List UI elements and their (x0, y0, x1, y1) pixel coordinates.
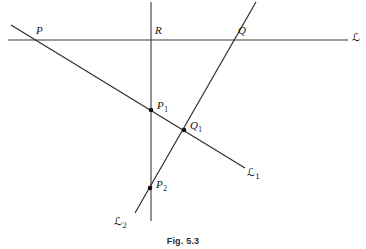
geometry-diagram (0, 0, 366, 249)
point-label-P1-base: P (157, 99, 164, 111)
line-label-L1-subscript: 1 (255, 172, 260, 181)
line-L1 (11, 25, 245, 168)
line-label-L2: ℒ2 (114, 216, 127, 227)
point-label-Q1-base: Q (190, 119, 198, 131)
point-label-P2: P2 (156, 179, 166, 190)
figure-container: P R Q P1 Q1 P2 ℒ ℒ1 ℒ2 Fig. 5.3 (0, 0, 366, 249)
line-label-L: ℒ (352, 32, 360, 43)
point-label-Q1-subscript: 1 (198, 125, 202, 134)
point-label-P2-base: P (156, 178, 163, 190)
point-dot-P1 (149, 108, 154, 113)
point-label-Q1: Q1 (190, 120, 202, 131)
point-label-P2-subscript: 2 (163, 184, 167, 193)
line-label-L1-base: ℒ (247, 166, 255, 179)
line-label-L2-subscript: 2 (122, 221, 127, 230)
point-label-P1-subscript: 1 (164, 105, 168, 114)
line-label-L2-base: ℒ (114, 215, 122, 228)
point-label-R: R (155, 25, 162, 36)
point-label-Q: Q (238, 25, 246, 36)
point-dot-P2 (148, 186, 153, 191)
line-label-L1: ℒ1 (247, 167, 260, 178)
point-label-P: P (36, 25, 43, 36)
figure-caption: Fig. 5.3 (0, 236, 366, 246)
point-dot-Q1 (182, 128, 187, 133)
point-label-P1: P1 (157, 100, 167, 111)
